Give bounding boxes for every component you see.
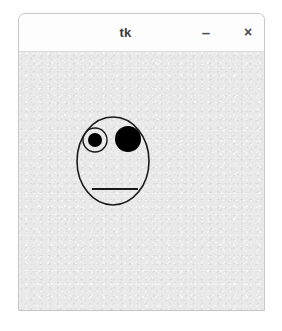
- left-eye-pupil: [88, 133, 102, 147]
- close-button[interactable]: ×: [235, 14, 261, 51]
- window-titlebar[interactable]: tk – ×: [19, 14, 264, 52]
- smiley-face-drawing: [19, 52, 264, 310]
- tk-canvas[interactable]: [19, 52, 264, 310]
- minimize-button[interactable]: –: [193, 14, 219, 51]
- tk-application-window: tk – ×: [18, 13, 265, 311]
- right-eye-circle: [115, 126, 141, 152]
